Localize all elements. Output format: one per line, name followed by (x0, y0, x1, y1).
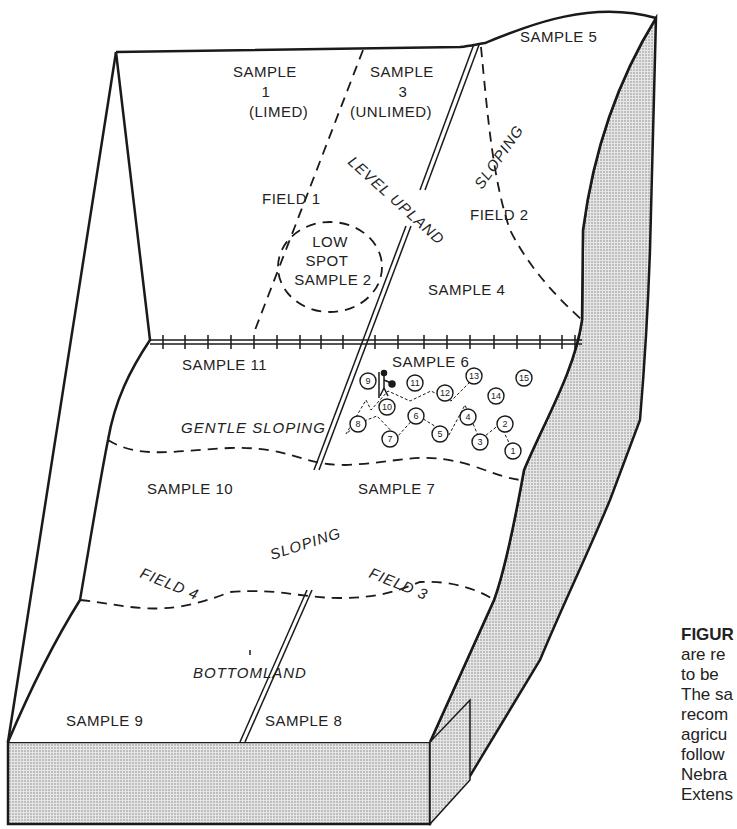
svg-text:13: 13 (469, 371, 479, 381)
figure-caption: FIGUR are re to be The sa recom agricu f… (681, 625, 737, 805)
svg-text:15: 15 (519, 373, 529, 383)
svg-text:8: 8 (355, 419, 360, 429)
svg-text:1: 1 (510, 446, 515, 456)
low-spot-line1: LOW (312, 233, 348, 250)
field2-label: FIELD 2 (470, 206, 529, 223)
sample4-label: SAMPLE 4 (428, 281, 505, 298)
sample1-label-line1: SAMPLE (233, 63, 297, 80)
svg-text:3: 3 (477, 437, 482, 447)
svg-text:12: 12 (440, 388, 450, 398)
caption-line-7: follow (681, 745, 737, 765)
svg-text:10: 10 (382, 402, 392, 412)
svg-text:7: 7 (387, 434, 392, 444)
caption-line-4: The sa (681, 685, 737, 705)
sample11-label: SAMPLE 11 (182, 356, 267, 373)
svg-text:2: 2 (502, 419, 507, 429)
sample1-label-line3: (LIMED) (249, 103, 308, 120)
sample3-label-line2: 3 (399, 83, 408, 100)
low-spot-line2: SPOT (306, 252, 349, 269)
svg-text:5: 5 (437, 429, 442, 439)
field1-label: FIELD 1 (262, 190, 321, 207)
sample5-label: SAMPLE 5 (520, 28, 597, 45)
caption-line-1: FIGUR (681, 625, 737, 645)
svg-text:14: 14 (491, 391, 501, 401)
bottomland-label: BOTTOMLAND (193, 664, 307, 681)
caption-line-3: to be (681, 665, 737, 685)
sample10-label: SAMPLE 10 (147, 480, 233, 497)
sample8-label: SAMPLE 8 (265, 712, 342, 729)
sample6-label: SAMPLE 6 (392, 353, 469, 370)
caption-line-2: are re (681, 645, 737, 665)
caption-line-9: Extens (681, 785, 737, 805)
svg-text:9: 9 (365, 376, 370, 386)
soil-sampling-block-diagram: 1 2 3 4 5 6 7 8 9 10 11 12 13 14 15 SAMP… (0, 0, 737, 829)
sample3-label-line3: (UNLIMED) (350, 103, 432, 120)
caption-line-5: recom (681, 705, 737, 725)
svg-text:11: 11 (410, 378, 419, 388)
svg-text:6: 6 (413, 411, 418, 421)
caption-line-8: Nebra (681, 765, 737, 785)
caption-line-6: agricu (681, 725, 737, 745)
svg-text:4: 4 (465, 412, 470, 422)
gentle-sloping-label: GENTLE SLOPING (181, 419, 326, 436)
sample3-label-line1: SAMPLE (370, 63, 434, 80)
sample7-label: SAMPLE 7 (358, 480, 435, 497)
front-face (8, 742, 430, 824)
sample1-label-line2: 1 (262, 83, 271, 100)
low-spot-line3: SAMPLE 2 (294, 271, 371, 288)
sample9-label: SAMPLE 9 (66, 712, 143, 729)
